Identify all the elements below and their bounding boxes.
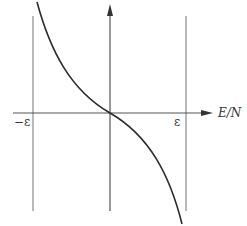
y-axis-arrow-icon bbox=[107, 4, 113, 16]
diagram-canvas bbox=[0, 0, 247, 226]
tick-label-neg-epsilon: −ε bbox=[14, 116, 30, 128]
tick-label-pos-epsilon: ε bbox=[174, 116, 180, 128]
x-axis-arrow-icon bbox=[201, 110, 213, 116]
x-axis-label: E/N bbox=[218, 107, 241, 119]
